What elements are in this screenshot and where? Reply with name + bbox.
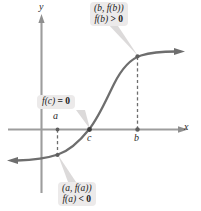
point-label-a: a [53, 110, 58, 121]
curve-right-arrowhead [174, 48, 185, 55]
callout-c-expr: f(c) [42, 96, 55, 106]
callout-b-line1: (b, f(b)) [94, 3, 124, 14]
callout-pointer-b [107, 23, 138, 56]
callout-c-relation: = 0 [55, 96, 70, 106]
point-label-b: b [134, 132, 139, 143]
callout-a-relation: < 0 [76, 194, 91, 204]
point-marker-b-curve [135, 54, 139, 58]
callout-a-expr: f(a) [62, 194, 76, 204]
callout-c-point: f(c) = 0 [37, 95, 75, 109]
callout-b-relation: > 0 [108, 14, 123, 24]
figure-container: y x a c b (b, f(b)) f(b) > 0 f(c) = 0 (a… [0, 0, 201, 211]
callout-a-point: (a, f(a)) f(a) < 0 [58, 182, 96, 206]
y-axis-label: y [39, 1, 43, 12]
y-axis-arrowhead [38, 14, 44, 23]
x-axis-label: x [184, 121, 188, 132]
graph-canvas [0, 0, 201, 211]
point-marker-a-axis [56, 128, 60, 132]
callout-pointer-c [76, 110, 90, 129]
point-label-c: c [87, 132, 91, 143]
callout-a-line1: (a, f(a)) [62, 183, 92, 194]
callout-b-point: (b, f(b)) f(b) > 0 [90, 2, 128, 26]
callout-pointer-a [58, 155, 76, 182]
point-marker-a-curve [55, 153, 59, 157]
callout-a-line2: f(a) < 0 [62, 194, 92, 205]
curve-left-arrowhead [7, 157, 18, 164]
callout-b-line2: f(b) > 0 [94, 14, 124, 25]
callout-b-expr: f(b) [94, 14, 108, 24]
